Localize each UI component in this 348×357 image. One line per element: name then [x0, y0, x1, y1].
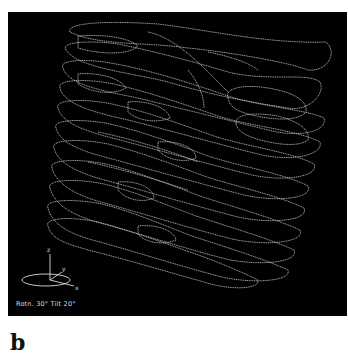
figure-panel: z y x Rotn. 30° Tilt 20°: [8, 12, 347, 316]
axis-label-x: x: [75, 284, 79, 291]
axis-label-z: z: [47, 246, 50, 253]
orientation-axes-icon: z y x: [16, 240, 86, 300]
axis-label-y: y: [62, 265, 66, 273]
view-caption: Rotn. 30° Tilt 20°: [16, 300, 76, 308]
panel-label: b: [10, 331, 25, 353]
